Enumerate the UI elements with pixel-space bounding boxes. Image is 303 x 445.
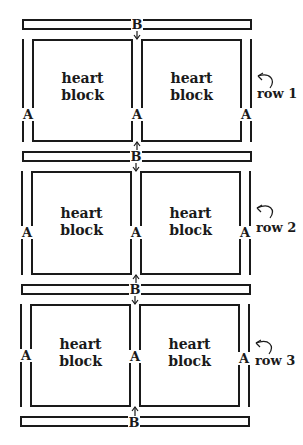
a-label-r1-left: A bbox=[21, 108, 35, 121]
b-label-2: B bbox=[130, 150, 142, 163]
a-label-r1-mid: A bbox=[130, 108, 144, 121]
b-label-3: B bbox=[129, 283, 141, 296]
heart-block-line2: block bbox=[141, 353, 238, 370]
heart-block-line1: heart bbox=[142, 205, 239, 222]
heart-block-r2-right: heart block bbox=[142, 205, 239, 239]
heart-block-r3-right: heart block bbox=[141, 336, 238, 370]
heart-block-r3-left: heart block bbox=[32, 336, 129, 370]
heart-block-line2: block bbox=[33, 222, 130, 239]
b-label-1: B bbox=[131, 18, 143, 31]
row-label-1: row 1 bbox=[257, 86, 297, 101]
a-label-r3-right: A bbox=[237, 352, 251, 365]
heart-block-line2: block bbox=[142, 222, 239, 239]
heart-block-line1: heart bbox=[33, 205, 130, 222]
heart-block-r2-left: heart block bbox=[33, 205, 130, 239]
a-label-r3-left: A bbox=[19, 349, 33, 362]
row-label-2: row 2 bbox=[256, 220, 296, 235]
heart-block-line2: block bbox=[143, 87, 240, 104]
a-label-r3-mid: A bbox=[128, 350, 142, 363]
a-label-r2-left: A bbox=[20, 226, 34, 239]
heart-block-line2: block bbox=[32, 353, 129, 370]
heart-block-line1: heart bbox=[34, 70, 131, 87]
a-label-r2-right: A bbox=[238, 226, 252, 239]
heart-block-line1: heart bbox=[143, 70, 240, 87]
heart-block-line1: heart bbox=[32, 336, 129, 353]
heart-block-line1: heart bbox=[141, 336, 238, 353]
row-label-3: row 3 bbox=[255, 353, 295, 368]
heart-block-r1-right: heart block bbox=[143, 70, 240, 104]
a-label-r2-mid: A bbox=[129, 226, 143, 239]
b-label-4: B bbox=[128, 416, 140, 429]
heart-block-line2: block bbox=[34, 87, 131, 104]
heart-block-r1-left: heart block bbox=[34, 70, 131, 104]
a-label-r1-right: A bbox=[239, 108, 253, 121]
